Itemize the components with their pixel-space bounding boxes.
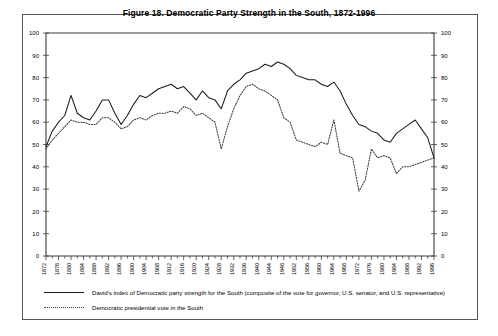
x-axis-tick-label: 1920 (191, 263, 197, 275)
y-axis-tick-label: 80 (32, 75, 39, 81)
x-axis-tick-label: 1976 (366, 263, 372, 275)
legend-item: Democratic presidential vote in the Sout… (44, 303, 474, 311)
x-axis-tick-label: 1924 (204, 263, 210, 275)
x-axis-tick-label: 1900 (129, 263, 135, 275)
x-axis-tick-label: 1888 (91, 263, 97, 275)
x-axis-tick-label: 1896 (116, 263, 122, 275)
y-axis-tick-label: 30 (32, 186, 39, 192)
chart-svg: 0010102020303040405050606070708080909010… (0, 0, 498, 336)
y-axis-tick-label: 20 (441, 209, 448, 215)
x-axis-tick-label: 1932 (229, 263, 235, 275)
x-axis-tick-label: 1928 (216, 263, 222, 275)
x-axis-tick-label: 1936 (241, 263, 247, 275)
y-axis-tick-label: 80 (441, 75, 448, 81)
y-axis-tick-label: 60 (441, 119, 448, 125)
x-axis-tick-label: 1984 (391, 263, 397, 275)
x-axis-tick-label: 1996 (429, 263, 435, 275)
legend-line-sample-dotted (44, 303, 84, 311)
y-axis-tick-label: 70 (441, 97, 448, 103)
x-axis-tick-label: 1988 (404, 263, 410, 275)
x-axis-tick-label: 1912 (166, 263, 172, 275)
y-axis-tick-label: 60 (32, 119, 39, 125)
x-axis-tick-label: 1880 (66, 263, 72, 275)
y-axis-tick-label: 40 (441, 164, 448, 170)
y-axis-tick-label: 90 (32, 53, 39, 59)
x-axis-tick-label: 1956 (304, 263, 310, 275)
y-axis-tick-label: 30 (441, 186, 448, 192)
x-axis-tick-label: 1992 (416, 263, 422, 275)
data-series-1 (46, 62, 434, 158)
chart-legend: David's index of Democratic party streng… (44, 288, 474, 318)
x-axis-tick-label: 1968 (341, 263, 347, 275)
x-axis-tick-label: 1972 (354, 263, 360, 275)
legend-item: David's index of Democratic party streng… (44, 288, 474, 296)
y-axis-tick-label: 90 (441, 53, 448, 59)
x-axis-tick-label: 1904 (141, 263, 147, 275)
y-axis-tick-label: 50 (441, 142, 448, 148)
legend-item-label: Democratic presidential vote in the Sout… (92, 304, 203, 311)
y-axis-tick-label: 20 (32, 209, 39, 215)
x-axis-tick-label: 1944 (266, 263, 272, 275)
y-axis-tick-label: 100 (29, 30, 40, 36)
y-axis-tick-label: 10 (441, 231, 448, 237)
x-axis-tick-label: 1952 (291, 263, 297, 275)
x-axis-tick-label: 1948 (279, 263, 285, 275)
x-axis-tick-label: 1908 (154, 263, 160, 275)
x-axis-tick-label: 1980 (379, 263, 385, 275)
x-axis-tick-label: 1940 (254, 263, 260, 275)
y-axis-tick-label: 0 (36, 253, 40, 259)
y-axis-tick-label: 70 (32, 97, 39, 103)
x-axis-tick-label: 1872 (41, 263, 47, 275)
x-axis-tick-label: 1876 (54, 263, 60, 275)
legend-line-sample-solid (44, 288, 84, 296)
y-axis-tick-label: 10 (32, 231, 39, 237)
y-axis-tick-label: 40 (32, 164, 39, 170)
legend-item-label: David's index of Democratic party streng… (92, 289, 445, 296)
x-axis-tick-label: 1964 (329, 263, 335, 275)
chart-plot-area: 0010102020303040405050606070708080909010… (0, 0, 498, 336)
y-axis-tick-label: 50 (32, 142, 39, 148)
x-axis-tick-label: 1916 (179, 263, 185, 275)
x-axis-tick-label: 1884 (79, 263, 85, 275)
x-axis-tick-label: 1960 (316, 263, 322, 275)
y-axis-tick-label: 0 (441, 253, 445, 259)
x-axis-tick-label: 1892 (104, 263, 110, 275)
y-axis-tick-label: 100 (441, 30, 452, 36)
